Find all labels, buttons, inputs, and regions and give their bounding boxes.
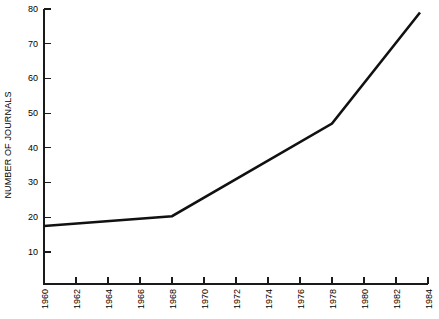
plot-area: 1020304050607080 19601962196419661968197… — [0, 0, 439, 319]
x-tick-label: 1970 — [200, 289, 210, 309]
x-tick-label: 1984 — [424, 289, 434, 309]
x-tick-label: 1978 — [328, 289, 338, 309]
line-chart: NUMBER OF JOURNALS 1020304050607080 1960… — [0, 0, 439, 319]
x-tick-label: 1962 — [72, 289, 82, 309]
x-tick-label: 1980 — [360, 289, 370, 309]
data-series-line — [44, 12, 420, 225]
x-tick-label: 1960 — [40, 289, 50, 309]
y-tick-label: 50 — [28, 108, 38, 118]
y-tick-label: 10 — [28, 247, 38, 257]
x-tick-label: 1976 — [296, 289, 306, 309]
y-tick-label: 20 — [28, 212, 38, 222]
y-axis-ticks: 1020304050607080 — [28, 4, 51, 257]
x-tick-label: 1972 — [232, 289, 242, 309]
y-tick-label: 60 — [28, 73, 38, 83]
x-axis-ticks: 1960196219641966196819701972197419761978… — [40, 277, 434, 309]
y-tick-label: 80 — [28, 4, 38, 14]
x-tick-label: 1968 — [168, 289, 178, 309]
x-tick-label: 1974 — [264, 289, 274, 309]
y-tick-label: 40 — [28, 143, 38, 153]
x-tick-label: 1966 — [136, 289, 146, 309]
x-tick-label: 1982 — [392, 289, 402, 309]
y-tick-label: 30 — [28, 177, 38, 187]
axis-lines — [44, 9, 428, 284]
x-tick-label: 1964 — [104, 289, 114, 309]
y-tick-label: 70 — [28, 39, 38, 49]
